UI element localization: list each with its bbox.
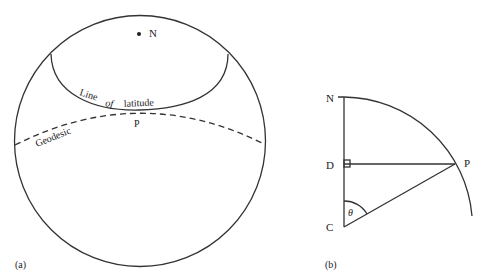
meridian-arc xyxy=(338,97,472,216)
segment-cp xyxy=(344,164,455,227)
panel-a: N Line of latitude Geodesic P (a) xyxy=(15,16,266,272)
north-pole-label: N xyxy=(149,27,157,39)
label-theta: θ xyxy=(348,207,353,218)
figure: N Line of latitude Geodesic P (a) N D C … xyxy=(0,0,481,280)
caption-b: (b) xyxy=(325,259,337,271)
north-pole-dot xyxy=(137,32,141,36)
latitude-label-word-2: of xyxy=(105,97,115,109)
latitude-label-word-1: Line xyxy=(78,86,99,102)
label-c: C xyxy=(326,221,333,233)
label-p: P xyxy=(464,157,470,169)
caption-a: (a) xyxy=(15,259,26,271)
panel-b: N D C P θ (b) xyxy=(325,92,472,271)
point-p-label-a: P xyxy=(134,118,140,129)
label-d: D xyxy=(326,159,334,171)
latitude-label-word-3: latitude xyxy=(124,96,155,109)
label-n: N xyxy=(326,92,334,104)
